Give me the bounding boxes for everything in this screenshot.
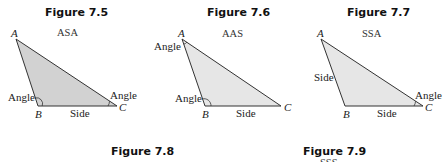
vertex-c-label: C [284,101,292,113]
vertex-a-label: A [177,27,185,39]
figure-7-8-title: Figure 7.8 [111,145,174,158]
figure-title: Figure 7.6 [207,6,271,19]
side-bc-label: Side [70,107,90,119]
figure-7-5: Figure 7.5 ASA A B C Angle Angle Side [8,6,137,120]
textbook-figure-page: Figure 7.5 ASA A B C Angle Angle Side Fi… [0,0,448,162]
side-bc-label: Side [377,107,397,119]
vertex-b-label: B [35,108,42,120]
angle-c-label: Angle [415,89,442,101]
vertex-a-label: A [316,27,324,39]
vertex-c-label: C [425,101,433,113]
angle-b-label: Angle [8,91,35,103]
side-bc-label: Side [236,107,256,119]
figure-title: Figure 7.7 [347,6,410,19]
vertex-c-label: C [119,101,127,113]
vertex-b-label: B [202,108,209,120]
figure-title: Figure 7.5 [45,6,108,19]
figure-caption: AAS [222,28,243,39]
vertex-b-label: B [343,108,350,120]
angle-a-label: Angle [154,40,181,52]
figure-7-7: Figure 7.7 SSA A B C Side Angle Side [314,6,442,120]
figure-caption: ASA [57,27,78,38]
figure-7-9-caption-partial: SSS [320,157,338,162]
figure-7-6: Figure 7.6 AAS A B C Angle Angle Side [154,6,292,120]
angle-c-label: Angle [110,89,137,101]
angle-b-label: Angle [175,92,202,104]
side-ab-label: Side [314,71,334,83]
figure-caption: SSA [362,28,382,39]
vertex-a-label: A [10,27,18,39]
triangle-ssa [321,39,423,106]
